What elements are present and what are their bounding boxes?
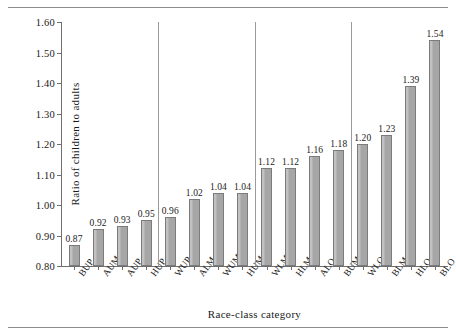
bar: 1.16: [309, 156, 320, 266]
bar-value-label: 0.96: [162, 206, 179, 216]
x-axis-tick-mark: [363, 266, 364, 270]
bar-value-label: 0.87: [66, 234, 83, 244]
bar: 0.96: [165, 217, 176, 266]
x-axis-title: Race-class category: [62, 308, 447, 320]
x-axis-tick-mark: [267, 266, 268, 270]
bar: 0.92: [93, 229, 104, 266]
y-axis-tick-mark: [57, 114, 62, 115]
y-axis-tick-mark: [57, 236, 62, 237]
bar: 1.04: [213, 193, 224, 266]
y-axis-tick-mark: [57, 22, 62, 23]
x-axis-tick-mark: [98, 266, 99, 270]
group-separator-line: [255, 22, 256, 266]
x-axis-tick-mark: [339, 266, 340, 270]
bar: 1.12: [285, 168, 296, 266]
bar-value-label: 1.12: [258, 157, 275, 167]
bar-value-label: 1.18: [330, 139, 347, 149]
page-rule-top: [8, 7, 448, 8]
y-axis-tick-mark: [57, 205, 62, 206]
bar-value-label: 1.02: [186, 188, 203, 198]
bar-value-label: 1.04: [234, 182, 251, 192]
bar: 1.02: [189, 199, 200, 266]
bar: 1.39: [405, 86, 416, 266]
x-axis-tick-mark: [146, 266, 147, 270]
x-axis-tick-mark: [387, 266, 388, 270]
bar: 1.18: [333, 150, 344, 266]
x-axis-tick-mark: [411, 266, 412, 270]
y-axis-tick-mark: [57, 83, 62, 84]
bar-value-label: 1.16: [306, 145, 323, 155]
x-axis-tick-mark: [242, 266, 243, 270]
x-axis-tick-mark: [435, 266, 436, 270]
bar: 1.04: [237, 193, 248, 266]
y-axis-tick-mark: [57, 144, 62, 145]
bar-value-label: 0.95: [138, 209, 155, 219]
bar-value-label: 1.20: [354, 133, 371, 143]
bar-chart-figure: Ratio of children to adults 0.800.901.00…: [0, 0, 456, 335]
x-axis-tick-label: BLO: [438, 256, 456, 278]
bar: 0.95: [141, 220, 152, 266]
y-axis-title: Ratio of children to adults: [69, 83, 81, 206]
y-axis-tick-mark: [57, 53, 62, 54]
bar: 1.54: [429, 40, 440, 266]
plot-area: Ratio of children to adults 0.800.901.00…: [62, 22, 447, 266]
bar: 1.12: [261, 168, 272, 266]
y-axis-tick-mark: [57, 266, 62, 267]
y-axis-tick-mark: [57, 175, 62, 176]
x-axis-tick-mark: [194, 266, 195, 270]
page-rule-bottom: [8, 327, 448, 328]
x-axis-tick-mark: [291, 266, 292, 270]
bar-value-label: 1.54: [426, 29, 443, 39]
bar: 1.23: [381, 135, 392, 266]
group-separator-line: [158, 22, 159, 266]
bar: 1.20: [357, 144, 368, 266]
bar-value-label: 0.93: [114, 215, 131, 225]
bar: 0.87: [69, 245, 80, 266]
bar: 0.93: [117, 226, 128, 266]
x-axis-tick-mark: [218, 266, 219, 270]
bar-value-label: 1.04: [210, 182, 227, 192]
group-separator-line: [351, 22, 352, 266]
bar-value-label: 0.92: [90, 218, 107, 228]
x-axis-tick-mark: [122, 266, 123, 270]
x-axis-tick-mark: [74, 266, 75, 270]
bar-value-label: 1.39: [402, 75, 419, 85]
x-axis-tick-mark: [170, 266, 171, 270]
bar-value-label: 1.12: [282, 157, 299, 167]
x-axis-tick-mark: [315, 266, 316, 270]
bar-value-label: 1.23: [378, 124, 395, 134]
